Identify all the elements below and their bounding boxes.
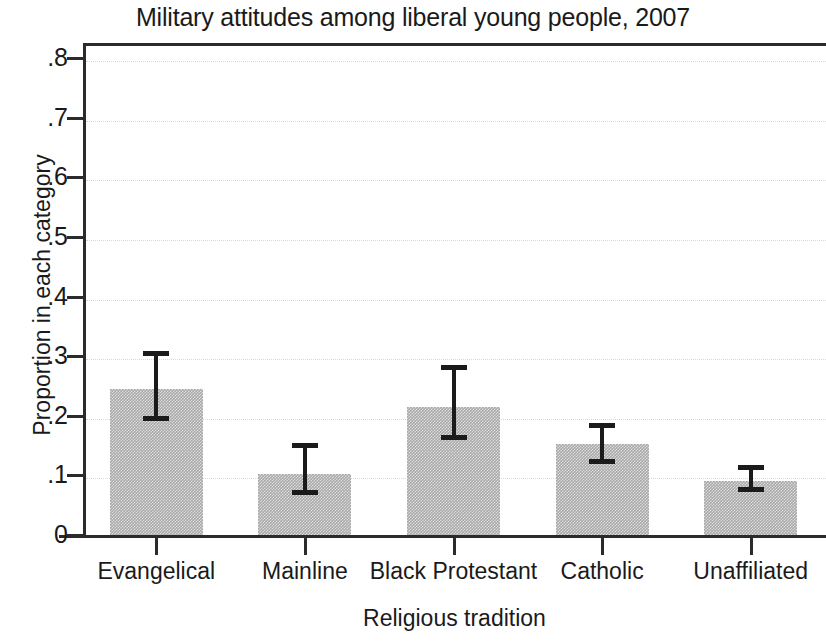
x-tick-label: Catholic	[561, 558, 644, 585]
y-tick-label: .2	[0, 403, 68, 428]
y-tick-mark	[67, 236, 83, 239]
x-axis-line	[59, 535, 826, 538]
y-tick-label: .8	[0, 45, 68, 70]
y-tick-label: .6	[0, 164, 68, 189]
error-bar-cap-lower	[589, 459, 615, 464]
y-tick-mark	[67, 415, 83, 418]
error-bar-stem	[452, 365, 456, 440]
gridline	[86, 121, 826, 123]
y-tick-mark	[67, 117, 83, 120]
error-bar	[439, 365, 469, 440]
y-tick-mark	[67, 474, 83, 477]
x-tick-mark	[601, 538, 604, 555]
x-tick-label: Unaffiliated	[693, 558, 808, 585]
error-bar-cap-lower	[292, 490, 318, 495]
gridline	[86, 240, 826, 242]
y-tick-label: .3	[0, 343, 68, 368]
error-bar-cap-upper	[589, 423, 615, 428]
gridline	[86, 180, 826, 182]
error-bar-cap-lower	[143, 416, 169, 421]
chart-figure: Military attitudes among liberal young p…	[0, 0, 826, 642]
error-bar-stem	[303, 443, 307, 495]
error-bar	[141, 351, 171, 421]
error-bar	[736, 465, 766, 492]
error-bar-cap-upper	[292, 443, 318, 448]
error-bar-cap-lower	[738, 487, 764, 492]
error-bar-stem	[154, 351, 158, 421]
y-tick-mark	[67, 534, 83, 537]
x-tick-label: Black Protestant	[370, 558, 537, 585]
x-axis-title: Religious tradition	[83, 605, 826, 631]
gridline	[86, 61, 826, 63]
error-bar-stem	[600, 423, 604, 464]
y-tick-mark	[67, 296, 83, 299]
error-bar	[587, 423, 617, 464]
y-tick-mark	[67, 176, 83, 179]
y-tick-label: .4	[0, 284, 68, 309]
x-tick-mark	[750, 538, 753, 555]
y-tick-mark	[67, 355, 83, 358]
x-tick-mark	[155, 538, 158, 555]
y-tick-label: .5	[0, 224, 68, 249]
x-tick-mark	[304, 538, 307, 555]
chart-title: Military attitudes among liberal young p…	[0, 2, 826, 32]
y-tick-label: 0	[0, 522, 68, 547]
error-bar-cap-upper	[143, 351, 169, 356]
error-bar-cap-upper	[738, 465, 764, 470]
y-tick-label: .1	[0, 462, 68, 487]
x-tick-label: Mainline	[262, 558, 348, 585]
error-bar	[290, 443, 320, 495]
x-tick-label: Evangelical	[97, 558, 215, 585]
y-tick-label: .7	[0, 105, 68, 130]
y-tick-mark	[67, 57, 83, 60]
error-bar-cap-lower	[441, 435, 467, 440]
gridline	[86, 300, 826, 302]
error-bar-cap-upper	[441, 365, 467, 370]
gridline	[86, 359, 826, 361]
x-tick-mark	[453, 538, 456, 555]
